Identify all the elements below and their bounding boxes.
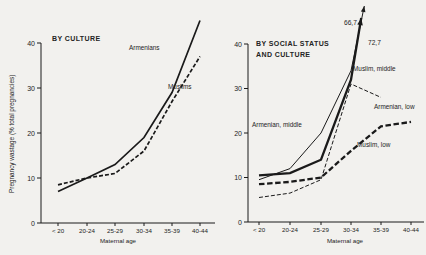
annotation-armenian-middle: 66,7: [344, 19, 357, 26]
chart-canvas: Pregnancy wastage (% total pregnancies) …: [0, 0, 426, 255]
y-tick-label: 10: [27, 175, 35, 182]
y-tick-label: 10: [234, 174, 242, 181]
y-tick-label: 20: [234, 130, 242, 137]
y-tick-label: 20: [27, 130, 35, 137]
y-tick-label: 0: [31, 220, 35, 227]
y-tick-label: 40: [234, 41, 242, 48]
y-tick-label: 30: [234, 85, 242, 92]
series-label-muslim-middle: Muslim, middle: [353, 65, 396, 72]
x-tick-label: < 20: [253, 226, 266, 233]
x-tick-label: 25-29: [313, 226, 329, 233]
series-label-armenians: Armenians: [129, 44, 160, 51]
left-axes: [41, 43, 215, 223]
right-panel-title: BY SOCIAL STATUS: [256, 40, 329, 47]
x-tick-label: 20-24: [79, 227, 95, 234]
x-tick-label: 30-34: [136, 227, 152, 234]
x-tick-label: 25-29: [107, 227, 123, 234]
y-tick-label: 40: [27, 40, 35, 47]
pregnancy-wastage-figure: Pregnancy wastage (% total pregnancies) …: [0, 0, 426, 255]
series-label-armenian-middle: Armenian, middle: [252, 121, 302, 128]
x-tick-label: 40-44: [403, 226, 419, 233]
y-tick-label: 0: [238, 219, 242, 226]
series-line-muslim-low: [259, 122, 411, 184]
x-tick-label: 35-39: [164, 227, 180, 234]
x-tick-label: 40-44: [192, 227, 208, 234]
annotation-muslim-middle: 72,7: [368, 39, 381, 46]
right-panel-title: AND CULTURE: [256, 51, 310, 58]
x-tick-label: 20-24: [282, 226, 298, 233]
x-tick-label: 35-39: [373, 226, 389, 233]
left-x-axis-title: Maternal age: [100, 237, 137, 244]
left-panel-title: BY CULTURE: [52, 35, 100, 42]
offscale-arrow-armenian-middle: [361, 6, 366, 12]
y-tick-label: 30: [27, 85, 35, 92]
x-tick-label: 30-34: [343, 226, 359, 233]
series-label-muslim-low: Muslim, low: [357, 141, 391, 148]
series-label-armenian-low: Armenian, low: [374, 103, 415, 110]
y-axis-title: Pregnancy wastage (% total pregnancies): [8, 75, 16, 193]
series-label-muslims: Muslims: [168, 83, 191, 90]
right-x-axis-title: Maternal age: [327, 237, 364, 244]
x-tick-label: < 20: [52, 227, 65, 234]
